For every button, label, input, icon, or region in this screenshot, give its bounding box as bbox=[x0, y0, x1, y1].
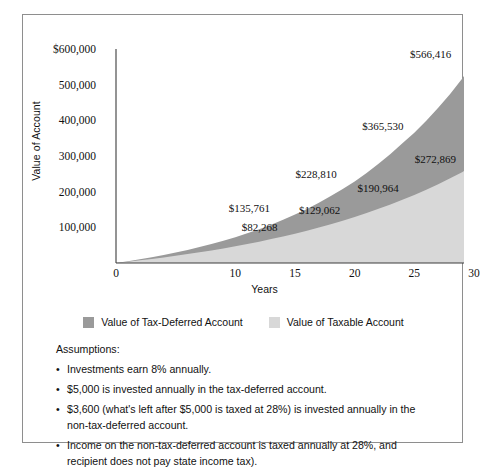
y-axis-tick-label: 400,000 bbox=[10, 114, 96, 126]
data-point-label: $129,062 bbox=[299, 204, 340, 216]
series-layer bbox=[116, 61, 464, 263]
y-axis-tick-label: 200,000 bbox=[10, 186, 96, 198]
legend-label: Value of Tax-Deferred Account bbox=[101, 316, 242, 328]
x-axis-title: Years bbox=[23, 283, 464, 295]
chart-figure: $600,000500,000400,000300,000200,000100,… bbox=[22, 14, 463, 443]
data-point-label: $365,530 bbox=[362, 120, 403, 132]
legend-swatch bbox=[269, 317, 280, 328]
data-point-label: $135,761 bbox=[229, 202, 270, 214]
data-point-label: $566,416 bbox=[410, 48, 451, 60]
data-point-label: $272,869 bbox=[415, 153, 456, 165]
data-point-label: $190,964 bbox=[358, 182, 399, 194]
y-axis-tick-label: 500,000 bbox=[10, 79, 96, 91]
x-axis-tick-label: 15 bbox=[275, 267, 315, 279]
chart-legend: Value of Tax-Deferred AccountValue of Ta… bbox=[23, 311, 464, 333]
y-axis-tick-label: 300,000 bbox=[10, 150, 96, 162]
assumptions-title: Assumptions: bbox=[56, 341, 438, 357]
legend-entry[interactable]: Value of Tax-Deferred Account bbox=[83, 316, 242, 328]
x-axis-tick-label: 10 bbox=[215, 267, 255, 279]
plot-area: $600,000500,000400,000300,000200,000100,… bbox=[23, 15, 464, 311]
assumptions-block: Assumptions: Investments earn 8% annuall… bbox=[56, 341, 438, 471]
legend-swatch bbox=[83, 317, 94, 328]
assumptions-list: Investments earn 8% annually.$5,000 is i… bbox=[56, 361, 438, 469]
assumption-item: Income on the non-tax-deferred account i… bbox=[56, 437, 438, 469]
data-point-label: $82,268 bbox=[242, 221, 278, 233]
assumption-item: $5,000 is invested annually in the tax-d… bbox=[56, 381, 438, 397]
x-axis-tick-label: 30 bbox=[454, 267, 485, 279]
x-axis-tick-label: 0 bbox=[96, 267, 136, 279]
x-axis-tick-label: 20 bbox=[335, 267, 375, 279]
x-axis-ticks: 01015202530 bbox=[23, 263, 464, 281]
x-axis-tick-label: 25 bbox=[394, 267, 434, 279]
data-point-label: $228,810 bbox=[296, 168, 337, 180]
assumption-item: $3,600 (what's left after $5,000 is taxe… bbox=[56, 401, 438, 433]
assumption-item: Investments earn 8% annually. bbox=[56, 361, 438, 377]
legend-label: Value of Taxable Account bbox=[287, 316, 404, 328]
y-axis-tick-label: 100,000 bbox=[10, 221, 96, 233]
x-axis-title-text: Years bbox=[251, 283, 277, 295]
y-axis-tick-label: $600,000 bbox=[10, 43, 96, 55]
legend-entry[interactable]: Value of Taxable Account bbox=[269, 316, 404, 328]
y-axis-title: Value of Account bbox=[30, 81, 42, 201]
